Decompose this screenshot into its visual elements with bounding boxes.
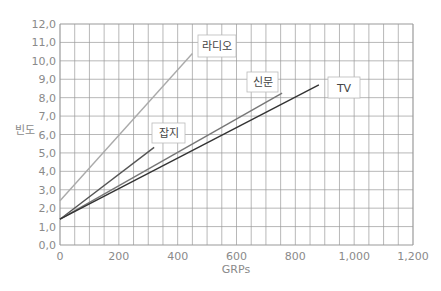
series-label-box: 신문 [247,72,278,92]
x-tick-label: 400 [167,250,188,263]
series-line [60,85,319,219]
y-tick-label: 2,0 [39,202,57,215]
y-tick-label: 11,0 [32,36,57,49]
x-tick-label: 0 [57,250,64,263]
x-axis-ticks: 02004006008001,0001,200 [57,250,429,263]
frequency-grp-chart: 0,01,02,03,04,05,06,07,08,09,010,011,012… [0,0,441,291]
y-axis-label: 빈도 [15,124,35,137]
x-tick-label: 800 [285,250,306,263]
series-label-box: 라디오 [198,35,236,57]
svg-text:라디오: 라디오 [202,40,232,53]
x-tick-label: 1,000 [338,250,370,263]
y-tick-label: 10,0 [32,55,57,68]
x-tick-label: 200 [108,250,129,263]
y-axis-ticks: 0,01,02,03,04,05,06,07,08,09,010,011,012… [32,18,57,252]
x-axis-label: GRPs [222,263,251,276]
series-label-box: TV [328,77,360,98]
svg-text:잡지: 잡지 [159,127,179,140]
y-tick-label: 6,0 [39,129,57,142]
series-line [60,93,282,219]
y-tick-label: 8,0 [39,92,57,105]
y-tick-label: 7,0 [39,110,57,123]
series-lines [60,53,319,219]
y-tick-label: 9,0 [39,73,57,86]
y-tick-label: 3,0 [39,184,57,197]
series-label-box: 잡지 [152,123,185,143]
x-tick-label: 1,200 [397,250,429,263]
y-tick-label: 0,0 [39,239,57,252]
svg-text:TV: TV [336,82,352,95]
y-tick-label: 12,0 [32,18,57,31]
series-labels: 라디오잡지신문TV [152,35,360,143]
y-tick-label: 5,0 [39,147,57,160]
grid [60,24,413,245]
y-tick-label: 1,0 [39,221,57,234]
svg-text:신문: 신문 [253,76,273,89]
y-tick-label: 4,0 [39,165,57,178]
x-tick-label: 600 [226,250,247,263]
